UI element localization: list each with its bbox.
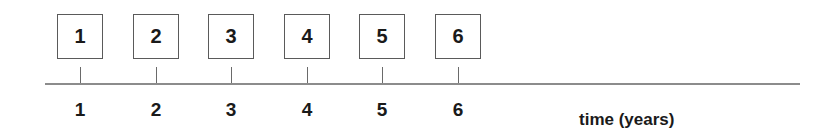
- period-box-5: 5: [359, 14, 405, 59]
- period-box-4: 4: [284, 14, 330, 59]
- tick-label-5: 5: [367, 100, 397, 120]
- tick-mark-1: [80, 67, 81, 84]
- tick-label-3: 3: [216, 100, 246, 120]
- tick-label-1: 1: [65, 100, 95, 120]
- time-axis-line: [45, 83, 800, 85]
- tick-mark-3: [231, 67, 232, 84]
- tick-mark-6: [458, 67, 459, 84]
- axis-title: time (years): [579, 110, 674, 130]
- period-box-3: 3: [208, 14, 254, 59]
- tick-mark-2: [156, 67, 157, 84]
- tick-label-2: 2: [141, 100, 171, 120]
- tick-label-4: 4: [292, 100, 322, 120]
- period-box-6: 6: [435, 14, 481, 59]
- tick-mark-5: [382, 67, 383, 84]
- tick-label-6: 6: [443, 100, 473, 120]
- period-box-2: 2: [133, 14, 179, 59]
- period-box-1: 1: [57, 14, 103, 59]
- tick-mark-4: [307, 67, 308, 84]
